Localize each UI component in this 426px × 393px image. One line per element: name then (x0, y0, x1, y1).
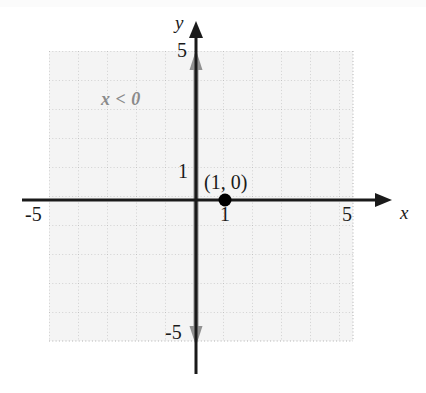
y-axis-label: y (175, 13, 183, 32)
y-tick-label-1: 1 (178, 161, 188, 181)
grid-region (49, 51, 353, 341)
x-tick-label-5: 5 (342, 204, 352, 224)
coordinate-plane-figure: y x 5 1 -5 -5 1 5 (1, 0) x < 0 (0, 0, 426, 393)
x-axis-label: x (400, 203, 408, 222)
x-tick-label-1: 1 (220, 204, 230, 224)
y-tick-label-neg5: -5 (165, 322, 182, 342)
region-label-x-less-than-0: x < 0 (101, 90, 141, 108)
x-tick-label-neg5: -5 (25, 204, 42, 224)
plot-canvas (0, 0, 426, 393)
point-label-1-0: (1, 0) (204, 172, 247, 192)
y-tick-label-5: 5 (177, 40, 187, 60)
